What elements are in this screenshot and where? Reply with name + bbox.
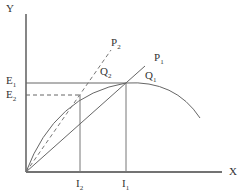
p1-line (26, 66, 145, 172)
q2-label: Q2 (100, 66, 111, 80)
diagram-canvas (0, 0, 245, 196)
p2-line (26, 50, 111, 172)
i2-label: I2 (76, 178, 83, 192)
q1-label: Q1 (145, 70, 156, 84)
x-axis-label: X (229, 166, 237, 177)
p1-label: P1 (154, 52, 164, 66)
y-axis-label: Y (6, 3, 14, 14)
curve (26, 83, 200, 172)
p2-label: P2 (111, 37, 121, 51)
i1-label: I1 (122, 178, 129, 192)
e2-label: E2 (6, 89, 16, 103)
